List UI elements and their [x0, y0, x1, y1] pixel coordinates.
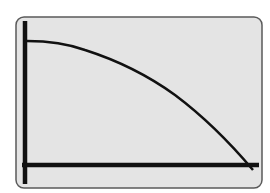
graph-screen	[0, 0, 270, 193]
